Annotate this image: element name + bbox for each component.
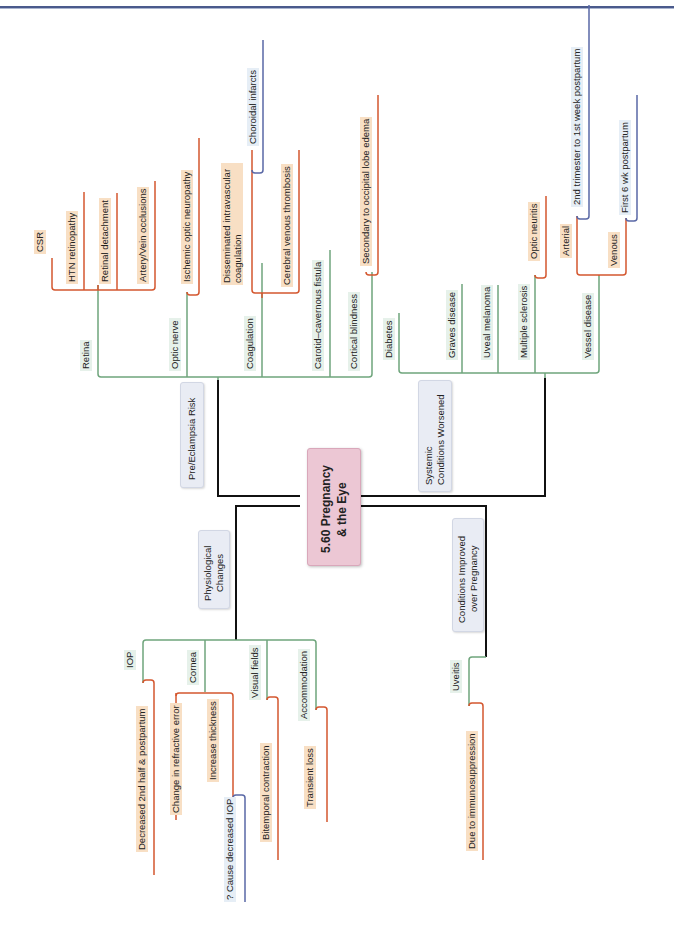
branch-pre-eclampsia-label: Pre/Eclampsia Risk [186, 398, 197, 480]
dic-line1: Disseminated intravascular [221, 165, 232, 283]
branch-physiological-line2: Changes [214, 554, 225, 592]
topic-optic-neuritis[interactable]: Optic neuritis [528, 202, 540, 261]
dic-line2: coagulation [232, 165, 243, 283]
topic-cause-decreased-iop[interactable]: ? Cause decreased IOP [224, 797, 236, 902]
branch-systemic-line2: Conditions Worsened [435, 394, 446, 485]
topic-csr[interactable]: CSR [34, 230, 46, 254]
topic-cornea[interactable]: Cornea [187, 650, 199, 685]
topic-bitemporal-contraction[interactable]: Bitemporal contraction [260, 743, 272, 842]
central-topic-line2: & the Eye [335, 482, 349, 537]
topic-uveitis[interactable]: Uveitis [450, 660, 462, 693]
central-topic-line1: 5.60 Pregnancy [319, 465, 333, 553]
branch-physiological-line1: Physiological [202, 546, 213, 601]
topic-cortical-blindness[interactable]: Cortical blindness [348, 292, 360, 371]
topic-change-in-refractive-error[interactable]: Change in refractive error [170, 703, 182, 815]
central-topic[interactable]: 5.60 Pregnancy & the Eye [307, 448, 361, 566]
topic-coagulation[interactable]: Coagulation [244, 316, 256, 371]
topic-decreased-2nd-half-postpartum[interactable]: Decreased 2nd half & postpartum [136, 706, 148, 852]
topic-optic-nerve[interactable]: Optic nerve [169, 318, 181, 371]
topic-carotid-cavernous-fistula[interactable]: Carotid–cavernous fistula [312, 260, 324, 371]
topic-accommodation[interactable]: Accommodation [298, 649, 310, 721]
topic-visual-fields[interactable]: Visual fields [249, 645, 261, 700]
branch-conditions-improved[interactable]: Conditions Improved over Pregnancy [452, 518, 484, 632]
branch-systemic-line1: Systemic [423, 446, 434, 485]
topic-htn-retinopathy[interactable]: HTN retinopathy [66, 211, 78, 284]
topic-artery-vein-occlusions[interactable]: Artery/Vein occlusions [137, 187, 149, 284]
topic-arterial[interactable]: Arterial [560, 224, 572, 258]
topic-choroidal-infarcts[interactable]: Choroidal infarcts [247, 68, 259, 146]
topic-iop[interactable]: IOP [124, 650, 136, 670]
topic-due-to-immunosuppression[interactable]: Due to immunosuppression [466, 731, 478, 851]
topic-retina[interactable]: Retina [80, 340, 92, 371]
topic-uveal-melanoma[interactable]: Uveal melanoma [481, 285, 493, 360]
branch-pre-eclampsia-risk[interactable]: Pre/Eclampsia Risk [180, 382, 204, 488]
branch-improved-line1: Conditions Improved [456, 536, 467, 623]
trunk-connectors [218, 378, 545, 657]
branch-physiological-changes[interactable]: Physiological Changes [198, 530, 230, 609]
topic-graves-disease[interactable]: Graves disease [446, 290, 458, 360]
topic-2nd-trimester-to-1st-week-postpartum[interactable]: 2nd trimester to 1st week postpartum [571, 47, 583, 207]
branch-improved-line2: over Pregnancy [468, 545, 479, 612]
branch-systemic-conditions-worsened[interactable]: Systemic Conditions Worsened [418, 380, 452, 492]
topic-vessel-disease[interactable]: Vessel disease [582, 293, 594, 360]
topic-cerebral-venous-thrombosis[interactable]: Cerebral venous thrombosis [281, 164, 293, 287]
topic-multiple-sclerosis[interactable]: Multiple sclerosis [518, 284, 530, 360]
topic-transient-loss[interactable]: Transient loss [304, 746, 316, 809]
topic-diabetes[interactable]: Diabetes [383, 319, 395, 361]
topic-disseminated-intravascular-coagulation[interactable]: Disseminated intravascular coagulation [221, 163, 243, 285]
topic-increase-thickness[interactable]: Increase thickness [207, 699, 219, 782]
topic-first-6-wk-postpartum[interactable]: First 6 wk postpartum [619, 120, 631, 215]
topic-retinal-detachment[interactable]: Retinal detachment [99, 198, 111, 284]
topic-venous[interactable]: Venous [608, 232, 620, 268]
topic-ischemic-optic-neuropathy[interactable]: Ischemic optic neuropathy [181, 170, 193, 284]
topic-secondary-to-occipital-lobe-edema[interactable]: Secondary to occipital lobe edema [360, 117, 372, 266]
